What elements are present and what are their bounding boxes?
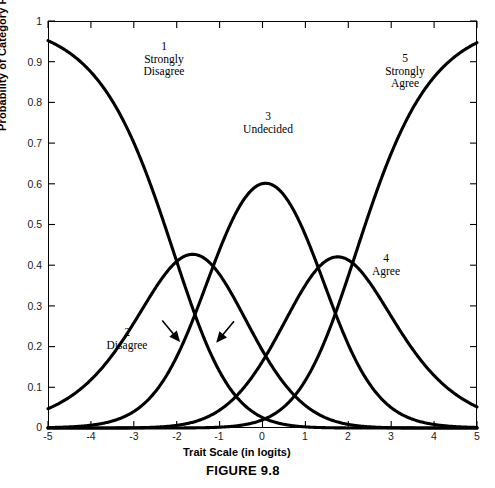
x-axis-title: Trait Scale (in logits) — [183, 446, 291, 458]
curve-label-line1: Strongly — [367, 65, 443, 78]
x-tick-label: -4 — [78, 430, 104, 442]
x-tick-label: 1 — [292, 430, 318, 442]
y-tick-label: 0.4 — [8, 259, 42, 271]
curve-label-number: 1 — [126, 40, 202, 53]
y-tick-label: 0.5 — [8, 218, 42, 230]
curve-1 — [48, 41, 477, 428]
curve-3 — [48, 183, 477, 427]
y-tick-label: 1 — [8, 15, 42, 27]
curve-label-line2: Agree — [367, 77, 443, 90]
x-tick-label: 3 — [378, 430, 404, 442]
x-tick-label: 2 — [335, 430, 361, 442]
curve-label-category-1: 1 Strongly Disagree — [126, 40, 202, 78]
x-tick-label: -3 — [121, 430, 147, 442]
x-tick-label: 4 — [421, 430, 447, 442]
figure-caption: FIGURE 9.8 — [206, 463, 280, 478]
curve-label-number: 5 — [367, 52, 443, 65]
y-tick-label: 0.1 — [8, 381, 42, 393]
x-tick-label: -2 — [164, 430, 190, 442]
curve-label-category-5: 5 Strongly Agree — [367, 52, 443, 90]
curve-label-line1: Agree — [356, 265, 416, 278]
x-tick-label: 0 — [249, 430, 275, 442]
x-tick-label: -5 — [35, 430, 61, 442]
y-tick-label: 0.8 — [8, 96, 42, 108]
x-tick-label: 5 — [464, 430, 490, 442]
curve-label-number: 3 — [230, 110, 306, 123]
curve-label-line1: Undecided — [230, 123, 306, 136]
curve-label-line1: Disagree — [88, 339, 166, 352]
y-tick-label: 0.9 — [8, 56, 42, 68]
curve-label-line1: Strongly — [126, 53, 202, 66]
y-axis-title: Probability of Category Response — [0, 0, 8, 136]
curve-label-category-3: 3 Undecided — [230, 110, 306, 135]
curve-label-category-2: 2 Disagree — [88, 326, 166, 351]
x-tick-label: -1 — [206, 430, 232, 442]
y-tick-label: 0.7 — [8, 137, 42, 149]
y-tick-label: 0.2 — [8, 340, 42, 352]
y-tick-label: 0.3 — [8, 300, 42, 312]
curve-paths — [48, 41, 477, 428]
curve-label-category-4: 4 Agree — [356, 252, 416, 277]
curve-label-number: 2 — [88, 326, 166, 339]
y-tick-label: 0.6 — [8, 178, 42, 190]
figure-9-8: 1 0.9 0.8 0.7 0.6 0.5 0.4 0.3 0.2 0.1 0 … — [0, 0, 495, 488]
curve-label-line2: Disagree — [126, 65, 202, 78]
curve-label-number: 4 — [356, 252, 416, 265]
